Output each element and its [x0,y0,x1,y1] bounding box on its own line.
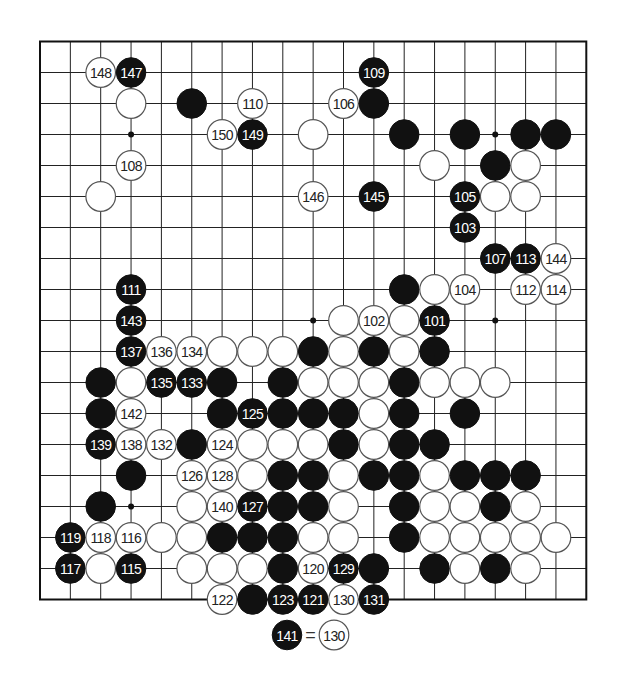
white-stone [177,554,207,584]
white-stone: 120 [298,554,328,584]
white-stone [268,430,298,460]
stone-move-number: 142 [120,406,142,422]
white-stone [298,430,328,460]
stone-move-number: 101 [424,313,446,329]
white-stone [268,337,298,367]
white-stone [238,461,268,491]
stone-move-number: 145 [363,189,385,205]
black-stone: 145 [359,182,389,212]
stone-label: 130 [323,628,345,644]
black-stone [238,523,268,553]
stone-move-number: 129 [333,561,355,577]
white-stone [86,182,116,212]
black-stone: 107 [480,244,510,274]
black-stone: 129 [329,554,359,584]
stone-move-number: 148 [90,65,112,81]
black-stone [511,120,541,150]
white-stone [329,306,359,336]
white-stone [329,461,359,491]
black-stone [389,492,419,522]
black-stone [116,461,146,491]
black-stone: 149 [238,120,268,150]
white-stone [359,430,389,460]
black-stone: 113 [511,244,541,274]
white-stone [329,337,359,367]
white-stone: 136 [147,337,177,367]
stone-move-number: 117 [60,561,81,577]
black-stone: 115 [116,554,146,584]
stone-move-number: 130 [333,592,355,608]
black-stone: 105 [450,182,480,212]
black-stone [359,461,389,491]
black-stone [420,554,450,584]
black-stone [268,554,298,584]
black-stone [420,430,450,460]
white-stone: 114 [541,275,571,305]
white-stone: 122 [207,585,237,615]
star-point [128,504,134,510]
white-stone [86,554,116,584]
white-stone: 144 [541,244,571,274]
white-stone [389,337,419,367]
black-stone: 137 [116,337,146,367]
white-stone: 148 [86,58,116,88]
black-stone [450,120,480,150]
stone-move-number: 135 [151,375,173,391]
stone-move-number: 116 [121,530,142,546]
black-stone [389,461,419,491]
black-stone [480,461,510,491]
star-point [492,132,498,138]
white-stone [511,151,541,181]
stone-label: 141 [276,628,298,644]
black-stone: 143 [116,306,146,336]
white-stone [420,492,450,522]
stone-move-number: 109 [363,65,385,81]
white-stone: 142 [116,399,146,429]
stone-move-number: 137 [120,344,142,360]
black-stone: 127 [238,492,268,522]
stone-move-number: 147 [120,65,142,81]
white-stone [298,120,328,150]
white-stone [450,492,480,522]
stone-move-number: 121 [302,592,324,608]
stone-move-number: 103 [454,220,476,236]
stone-move-number: 106 [333,96,355,112]
black-stone [207,399,237,429]
black-stone [238,585,268,615]
black-stone [450,461,480,491]
black-stone [298,492,328,522]
star-point [310,318,316,324]
black-stone [389,275,419,305]
black-stone [389,523,419,553]
black-stone [298,461,328,491]
white-stone [329,523,359,553]
white-stone [480,368,510,398]
stone-move-number: 146 [302,189,324,205]
black-stone: 135 [147,368,177,398]
black-stone [359,89,389,119]
move-footnote: 141 = 130 [272,620,349,650]
stone-move-number: 108 [120,158,142,174]
black-stone [268,368,298,398]
white-stone [207,337,237,367]
stone-move-number: 144 [545,251,567,267]
white-stone [116,89,146,119]
stone-move-number: 102 [363,313,385,329]
white-stone [238,554,268,584]
black-stone: 125 [238,399,268,429]
stone-move-number: 104 [454,282,476,298]
white-stone [480,523,510,553]
black-stone [389,368,419,398]
white-stone [450,554,480,584]
star-point [492,318,498,324]
white-stone: 140 [207,492,237,522]
black-stone [207,368,237,398]
black-stone: 111 [116,275,146,305]
white-stone [238,337,268,367]
white-stone: 106 [329,89,359,119]
white-stone [359,399,389,429]
white-stone [329,368,359,398]
stone-move-number: 136 [151,344,173,360]
stone-move-number: 125 [242,406,264,422]
black-stone [359,554,389,584]
